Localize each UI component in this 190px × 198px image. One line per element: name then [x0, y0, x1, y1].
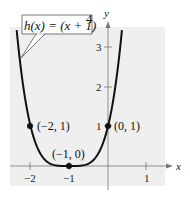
y-axis-arrow-icon [106, 21, 111, 28]
plot-background [10, 27, 165, 186]
point-marker [66, 163, 72, 169]
point-label: (0, 1) [114, 119, 140, 133]
x-axis-label: x [175, 160, 181, 172]
y-axis-label: y [103, 7, 109, 19]
x-tick-label: 1 [144, 172, 150, 184]
y-tick-label: 3 [96, 41, 102, 53]
point-marker [105, 123, 111, 129]
x-axis-arrow-icon [166, 164, 173, 169]
point-label: (−2, 1) [37, 119, 70, 133]
point-marker [27, 123, 33, 129]
point-label: (−1, 0) [52, 147, 85, 161]
x-tick-label: −2 [24, 172, 36, 184]
x-tick-label: −1 [63, 172, 75, 184]
equation-exponent: 4 [86, 11, 93, 26]
function-graph: x y −2 −1 1 1 2 3 (−2, 1) (−1, 0) (0, 1)… [0, 0, 190, 198]
y-tick-label: 1 [96, 120, 102, 132]
y-tick-label: 2 [96, 81, 102, 93]
